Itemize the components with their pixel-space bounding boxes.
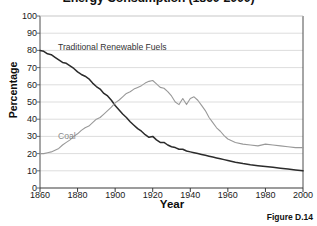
figure-caption: Figure D.14 (267, 212, 313, 222)
series-label-coal: Coal (58, 131, 76, 141)
x-tick-label: 1920 (133, 190, 173, 200)
y-tick-label: 70 (3, 63, 37, 73)
series-label-traditional-renewable-fuels: Traditional Renewable Fuels (58, 42, 167, 52)
x-tick-label: 1880 (58, 190, 98, 200)
y-tick-label: 20 (3, 149, 37, 159)
y-tick-label: 30 (3, 131, 37, 141)
y-tick-label: 90 (3, 28, 37, 38)
y-tick-label: 100 (3, 11, 37, 21)
chart-title: Energy Consumption (1860-2000) (0, 0, 317, 5)
x-tick-label: 1860 (20, 190, 60, 200)
x-tick-label: 1960 (208, 190, 248, 200)
x-tick-label: 1900 (95, 190, 135, 200)
y-tick-label: 60 (3, 80, 37, 90)
y-tick-label: 10 (3, 166, 37, 176)
x-tick-label: 1980 (245, 190, 285, 200)
x-tick-label: 1940 (170, 190, 210, 200)
y-tick-label: 80 (3, 45, 37, 55)
y-tick-label: 40 (3, 114, 37, 124)
y-tick-label: 50 (3, 97, 37, 107)
x-tick-label: 2000 (283, 190, 317, 200)
chart-figure: Energy Consumption (1860-2000) Percentag… (0, 0, 317, 226)
